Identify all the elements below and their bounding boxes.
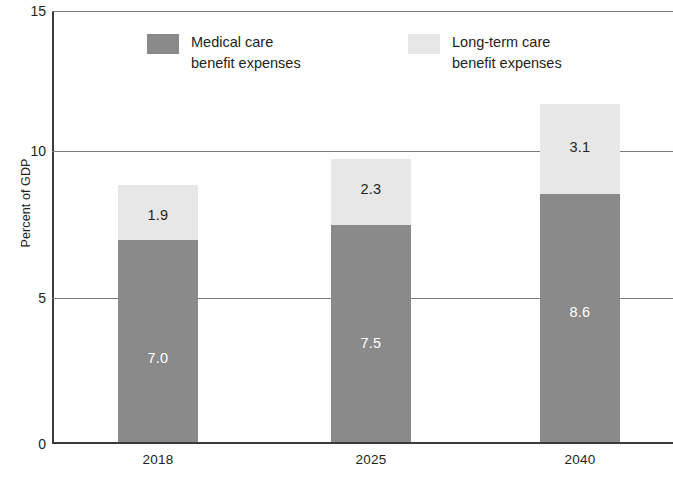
legend-label-medical-care: Medical care benefit expenses: [191, 32, 301, 73]
y-tick-label-5: 5: [10, 291, 46, 305]
y-tick-label-15: 15: [10, 4, 46, 18]
gridline-15: [52, 11, 673, 12]
legend-label-long-term-care: Long-term care benefit expenses: [452, 32, 562, 73]
bar-segment-longterm-2018[interactable]: 1.9: [118, 185, 198, 240]
legend-swatch-long-term-care-icon: [408, 34, 440, 54]
bar-value-medical-2018: 7.0: [118, 350, 198, 366]
bar-2018[interactable]: 1.9 7.0: [118, 185, 198, 442]
legend-swatch-medical-care-icon: [147, 34, 179, 54]
bar-value-medical-2040: 8.6: [540, 304, 620, 320]
bar-segment-medical-2040[interactable]: 8.6: [540, 194, 620, 442]
y-axis-line: [52, 11, 54, 444]
bar-segment-longterm-2040[interactable]: 3.1: [540, 104, 620, 194]
x-axis-line: [52, 442, 673, 444]
bar-value-medical-2025: 7.5: [331, 335, 411, 351]
bar-2040[interactable]: 3.1 8.6: [540, 104, 620, 442]
bar-segment-longterm-2025[interactable]: 2.3: [331, 159, 411, 225]
y-tick-label-10: 10: [10, 144, 46, 158]
bar-value-longterm-2018: 1.9: [118, 207, 198, 223]
bar-segment-medical-2018[interactable]: 7.0: [118, 240, 198, 442]
y-tick-label-0: 0: [10, 437, 46, 451]
bar-2025[interactable]: 2.3 7.5: [331, 159, 411, 442]
plot-area: 1.9 7.0 2.3 7.5 3.1 8.6: [52, 11, 673, 444]
x-tick-label-2025: 2025: [311, 452, 431, 467]
bar-value-longterm-2025: 2.3: [331, 181, 411, 197]
x-tick-label-2018: 2018: [98, 452, 218, 467]
bar-segment-medical-2025[interactable]: 7.5: [331, 225, 411, 442]
x-tick-label-2040: 2040: [520, 452, 640, 467]
stacked-bar-chart: Percent of GDP 15 10 5 0 1.9 7.0 2.3 7.5: [0, 0, 673, 477]
legend-item-long-term-care[interactable]: Long-term care benefit expenses: [408, 32, 562, 73]
legend-item-medical-care[interactable]: Medical care benefit expenses: [147, 32, 301, 73]
bar-value-longterm-2040: 3.1: [540, 139, 620, 155]
